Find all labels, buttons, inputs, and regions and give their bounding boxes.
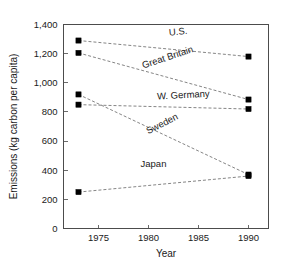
series-label-w-germany: W. Germany	[157, 88, 211, 102]
y-tick-label: 1,200	[34, 48, 58, 59]
y-axis-ticks: 02004006008001,0001,2001,400	[34, 19, 68, 234]
x-tick-label: 1980	[138, 232, 159, 243]
y-tick-label: 200	[42, 194, 58, 205]
data-point-marker	[246, 173, 251, 178]
y-tick-label: 600	[42, 135, 58, 146]
y-tick-label: 800	[42, 106, 58, 117]
y-tick-label: 0	[52, 223, 57, 234]
data-point-marker	[246, 106, 251, 111]
series-label-japan: Japan	[141, 158, 167, 169]
y-tick-label: 1,000	[34, 77, 58, 88]
series-inline-labels: U.S.Great BritainW. GermanySwedenJapan	[140, 25, 210, 170]
data-point-marker	[76, 189, 81, 194]
x-tick-label: 1975	[88, 232, 109, 243]
emissions-line-chart: 02004006008001,0001,2001,400 19751980198…	[0, 0, 293, 274]
x-axis-title: Year	[156, 248, 177, 259]
data-point-marker	[76, 102, 81, 107]
x-tick-label: 1985	[188, 232, 209, 243]
data-point-marker	[246, 97, 251, 102]
y-tick-label: 400	[42, 165, 58, 176]
data-point-marker	[246, 54, 251, 59]
series-line	[79, 176, 249, 192]
x-tick-label: 1990	[238, 232, 259, 243]
data-point-marker	[76, 50, 81, 55]
chart-figure: 02004006008001,0001,2001,400 19751980198…	[0, 0, 293, 274]
y-tick-label: 1,400	[34, 19, 58, 30]
x-axis-ticks: 1975198019851990	[88, 225, 259, 243]
series-label-sweden: Sweden	[144, 111, 180, 136]
series-line	[79, 105, 249, 109]
series-label-u-s: U.S.	[168, 25, 188, 38]
data-point-marker	[76, 92, 81, 97]
data-point-marker	[76, 38, 81, 43]
y-axis-title: Emissions (kg carbon per capita)	[8, 54, 19, 200]
